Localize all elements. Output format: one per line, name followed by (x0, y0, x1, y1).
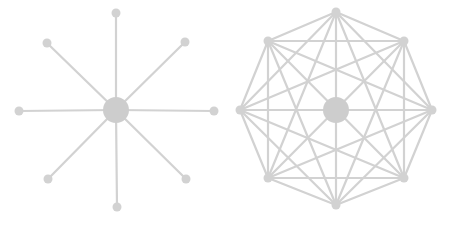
node (43, 39, 52, 48)
node (113, 203, 122, 212)
edge (116, 110, 117, 207)
node (181, 38, 190, 47)
node (400, 174, 409, 183)
node (15, 107, 24, 116)
star-topology-diagram (15, 9, 219, 212)
node (182, 175, 191, 184)
node (264, 37, 273, 46)
node (400, 37, 409, 46)
hub-node (103, 97, 129, 123)
node (332, 8, 341, 17)
edge (47, 43, 116, 110)
full-mesh-topology-diagram (236, 8, 437, 210)
edge (116, 110, 186, 179)
edge (48, 110, 116, 179)
node (264, 174, 273, 183)
edge (116, 42, 185, 110)
node (44, 175, 53, 184)
edge (116, 110, 214, 111)
node (332, 201, 341, 210)
network-topology-diagrams (0, 0, 449, 228)
node (210, 107, 219, 116)
node (236, 106, 245, 115)
hub-node (323, 97, 349, 123)
node (112, 9, 121, 18)
diagram-canvas (0, 0, 449, 228)
edge (19, 110, 116, 111)
node (428, 106, 437, 115)
